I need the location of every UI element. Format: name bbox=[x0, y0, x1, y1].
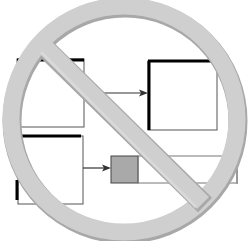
box-top-right bbox=[148, 61, 217, 130]
diagram-canvas bbox=[0, 0, 251, 241]
box-gray bbox=[111, 156, 138, 183]
arrow-bottom bbox=[83, 165, 111, 172]
